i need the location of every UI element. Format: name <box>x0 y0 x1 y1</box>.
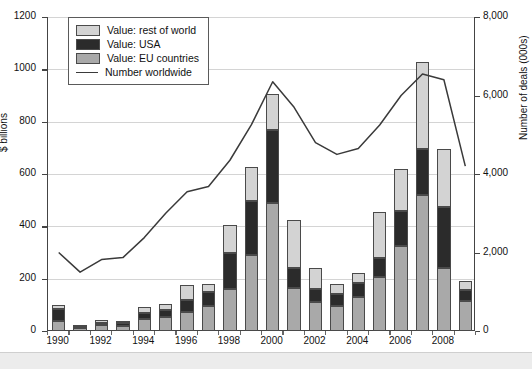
bar-segment-1991-eu <box>73 328 86 331</box>
x-axis-tick-label-1994: 1994 <box>132 335 154 346</box>
bar-segment-1994-usa <box>138 313 151 320</box>
gridline <box>48 122 474 123</box>
bar-segment-2002-usa <box>309 289 322 302</box>
x-axis-tick-mark <box>325 331 326 335</box>
y-axis-left-tick-mark <box>42 122 47 123</box>
bar-segment-1993-eu <box>116 326 129 331</box>
bar-segment-2000-row <box>266 94 279 129</box>
legend-swatch-number-worldwide <box>76 68 98 77</box>
bar-segment-2003-eu <box>330 306 343 331</box>
bar-segment-2004-eu <box>352 297 365 331</box>
bar-segment-2004-row <box>352 273 365 282</box>
bar-segment-2000-usa <box>266 130 279 203</box>
legend-label-usa: Value: USA <box>107 38 161 50</box>
y-axis-left-tick-mark <box>42 69 47 70</box>
bar-segment-2001-eu <box>287 288 300 331</box>
bar-1990 <box>52 305 65 331</box>
y-axis-right-tick-mark <box>475 253 480 254</box>
bar-segment-1995-usa <box>159 310 172 317</box>
y-axis-left-tick-mark <box>42 17 47 18</box>
bar-2007 <box>416 61 429 331</box>
bar-segment-2006-eu <box>394 246 407 331</box>
bar-2000 <box>266 94 279 331</box>
y-axis-left-tick-label: 1000 <box>0 62 36 73</box>
bar-segment-2002-eu <box>309 302 322 331</box>
bar-segment-2001-row <box>287 220 300 268</box>
bar-segment-2006-row <box>394 169 407 211</box>
x-axis-tick-label-2002: 2002 <box>303 335 325 346</box>
bar-1996 <box>180 285 193 331</box>
bar-segment-1995-eu <box>159 317 172 331</box>
y-axis-left-tick-mark <box>42 174 47 175</box>
chart-legend: Value: rest of world Value: USA Value: E… <box>68 17 209 85</box>
y-axis-right-tick-label: 8,000 <box>483 10 508 21</box>
bar-segment-1990-row <box>52 305 65 309</box>
bar-segment-1992-eu <box>95 325 108 331</box>
y-axis-right-tick-label: 6,000 <box>483 89 508 100</box>
legend-item-rest-of-world: Value: rest of world <box>76 23 199 37</box>
bar-segment-1993-usa <box>116 323 129 326</box>
y-axis-left-tick-label: 200 <box>0 272 36 283</box>
bar-segment-1999-row <box>245 167 258 201</box>
x-axis-tick-mark <box>154 331 155 335</box>
bar-segment-1993-row <box>116 321 129 323</box>
legend-label-number-worldwide: Number worldwide <box>105 66 192 78</box>
y-axis-right-tick-mark <box>475 96 480 97</box>
x-axis-tick-mark <box>240 331 241 335</box>
bar-segment-2004-usa <box>352 283 365 297</box>
y-axis-right-tick-label: 4,000 <box>483 167 508 178</box>
bar-segment-2008-usa <box>437 207 450 268</box>
bar-2005 <box>373 212 386 331</box>
x-axis-tick-label-2004: 2004 <box>346 335 368 346</box>
x-axis-tick-mark <box>368 331 369 335</box>
bar-segment-1991-row <box>73 325 86 327</box>
x-axis-tick-mark <box>475 331 476 335</box>
legend-item-number-worldwide: Number worldwide <box>76 65 199 79</box>
legend-item-usa: Value: USA <box>76 37 199 51</box>
x-axis-tick-mark <box>197 331 198 335</box>
bar-segment-1996-row <box>180 285 193 299</box>
x-axis-tick-mark <box>411 331 412 335</box>
bar-segment-1997-row <box>202 284 215 292</box>
bar-segment-2000-eu <box>266 203 279 331</box>
bar-segment-2005-eu <box>373 277 386 331</box>
bar-segment-1994-row <box>138 307 151 312</box>
x-axis-tick-label-1990: 1990 <box>47 335 69 346</box>
bar-segment-2007-usa <box>416 149 429 195</box>
bar-1999 <box>245 167 258 331</box>
bar-segment-1998-eu <box>223 289 236 331</box>
bar-segment-1999-usa <box>245 201 258 255</box>
bar-2009 <box>459 281 472 331</box>
y-axis-left-tick-label: 400 <box>0 219 36 230</box>
bar-segment-1996-usa <box>180 300 193 313</box>
gridline <box>48 279 474 280</box>
bar-segment-1992-row <box>95 320 108 323</box>
bar-2006 <box>394 169 407 331</box>
bar-segment-1996-eu <box>180 312 193 331</box>
bar-segment-1990-usa <box>52 309 65 321</box>
legend-swatch-rest-of-world <box>76 25 100 36</box>
y-axis-left-tick-label: 0 <box>0 324 36 335</box>
bar-segment-2005-row <box>373 212 386 258</box>
bar-segment-1990-eu <box>52 321 65 331</box>
bar-segment-2006-usa <box>394 211 407 246</box>
y-axis-left-tick-label: 800 <box>0 115 36 126</box>
bar-1992 <box>95 320 108 332</box>
legend-item-eu-countries: Value: EU countries <box>76 51 199 65</box>
bar-segment-2007-row <box>416 62 429 150</box>
legend-swatch-usa <box>76 39 100 50</box>
y-axis-left-tick-label: 1200 <box>0 10 36 21</box>
bar-segment-2002-row <box>309 268 322 289</box>
bar-segment-2005-usa <box>373 258 386 278</box>
gridline <box>48 226 474 227</box>
x-axis-tick-label-1992: 1992 <box>89 335 111 346</box>
x-axis-tick-mark <box>111 331 112 335</box>
y-axis-right-tick-mark <box>475 174 480 175</box>
bar-2001 <box>287 220 300 331</box>
bar-segment-2009-eu <box>459 301 472 331</box>
bar-segment-2009-row <box>459 281 472 290</box>
bar-segment-1994-eu <box>138 319 151 331</box>
x-axis-tick-label-1996: 1996 <box>175 335 197 346</box>
fdi-value-and-deals-chart: $ billions Number of deals (000s) 020040… <box>0 0 532 369</box>
bar-segment-1999-eu <box>245 255 258 331</box>
